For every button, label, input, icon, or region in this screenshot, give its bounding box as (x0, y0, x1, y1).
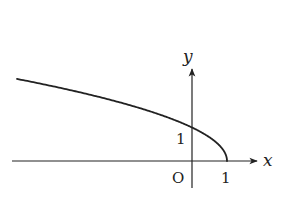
function-curve (17, 79, 227, 161)
y-axis-label: y (182, 46, 193, 66)
origin-label: O (172, 169, 184, 187)
y-tick-label-1: 1 (176, 130, 186, 148)
x-tick-label-1: 1 (221, 169, 231, 187)
x-axis-label: x (263, 150, 273, 170)
function-graph: y x O 1 1 (0, 0, 285, 203)
